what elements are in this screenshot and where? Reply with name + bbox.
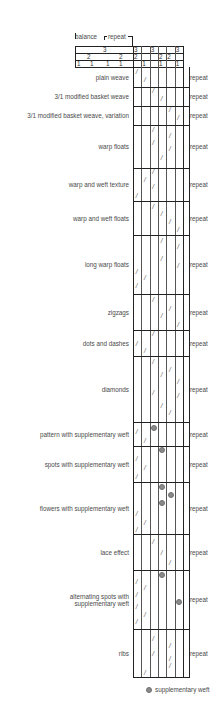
warp-mark-icon: / xyxy=(161,237,163,244)
weave-label: pattern with supplementary weft xyxy=(40,431,129,438)
warp-mark-icon: / xyxy=(152,650,154,657)
warp-mark-icon: / xyxy=(161,255,163,262)
supplementary-weft-dot-icon xyxy=(146,687,152,693)
warp-mark-icon: / xyxy=(136,282,138,289)
warp-mark-icon: / xyxy=(161,549,163,556)
warp-mark-icon: / xyxy=(161,371,163,378)
row-divider xyxy=(133,677,190,678)
header-border xyxy=(75,46,76,67)
repeat-text: repeat xyxy=(108,33,126,40)
bracket-line xyxy=(104,36,105,40)
grid-column-line xyxy=(133,46,134,677)
header-count: 3 xyxy=(134,46,138,53)
row-divider xyxy=(133,482,190,483)
weave-label: 3/1 modified basket weave xyxy=(54,93,129,100)
header-count: 3 xyxy=(103,46,107,53)
header-count: 2 xyxy=(167,53,171,60)
warp-mark-icon: / xyxy=(136,526,138,533)
legend: supplementary weft xyxy=(146,686,210,693)
warp-mark-icon: / xyxy=(152,126,154,133)
warp-mark-icon: / xyxy=(152,203,154,210)
weave-label: warp floats xyxy=(99,143,129,150)
warp-mark-icon: / xyxy=(144,76,146,83)
repeat-label: repeat xyxy=(190,93,208,100)
repeat-label: repeat xyxy=(190,431,208,438)
warp-mark-icon: / xyxy=(136,618,138,625)
warp-mark-icon: / xyxy=(136,578,138,585)
warp-mark-icon: / xyxy=(169,642,171,649)
header-count: 3 xyxy=(151,46,155,53)
header-count: 1 xyxy=(176,60,180,67)
header-count: 1 xyxy=(106,60,110,67)
row-divider xyxy=(133,294,190,295)
repeat-label: repeat xyxy=(190,340,208,347)
warp-mark-icon: / xyxy=(177,378,179,385)
warp-mark-icon: / xyxy=(136,603,138,610)
warp-mark-icon: / xyxy=(144,176,146,183)
supplementary-weft-dot-icon xyxy=(176,599,182,605)
weave-label: long warp floats xyxy=(85,261,129,268)
weave-label: alternating spots withsupplementary weft xyxy=(70,593,129,607)
row-divider xyxy=(133,87,190,88)
balance-text: balance xyxy=(75,33,97,40)
header-count: 1 xyxy=(119,60,123,67)
warp-mark-icon: / xyxy=(169,409,171,416)
warp-mark-icon: / xyxy=(144,274,146,281)
weave-label: warp and weft texture xyxy=(69,181,129,188)
warp-mark-icon: / xyxy=(144,611,146,618)
warp-mark-icon: / xyxy=(161,154,163,161)
repeat-bracket-line xyxy=(189,67,190,677)
repeat-label: repeat xyxy=(190,461,208,468)
weave-label: dots and dashes xyxy=(83,340,129,347)
warp-mark-icon: / xyxy=(161,402,163,409)
repeat-label: repeat xyxy=(190,181,208,188)
supplementary-weft-dot-icon xyxy=(168,492,174,498)
row-divider xyxy=(133,106,190,107)
supplementary-weft-dot-icon xyxy=(159,500,165,506)
warp-mark-icon: / xyxy=(144,519,146,526)
row-divider xyxy=(133,422,190,423)
warp-mark-icon: / xyxy=(177,321,179,328)
header-count: 2 xyxy=(119,53,123,60)
row-divider xyxy=(133,534,190,535)
repeat-label: repeat xyxy=(190,215,208,222)
warp-mark-icon: / xyxy=(136,340,138,347)
warp-mark-icon: / xyxy=(169,305,171,312)
warp-mark-icon: / xyxy=(169,145,171,152)
warp-mark-icon: / xyxy=(144,437,146,444)
repeat-label: repeat xyxy=(190,261,208,268)
repeat-label: repeat xyxy=(190,549,208,556)
bracket-line xyxy=(75,33,76,39)
weave-label: diamonds xyxy=(102,386,129,393)
warp-mark-icon: / xyxy=(144,584,146,591)
grid-column-line xyxy=(158,46,159,677)
row-divider xyxy=(133,235,190,236)
header-count: 1 xyxy=(77,60,81,67)
warp-mark-icon: / xyxy=(152,183,154,190)
warp-mark-icon: / xyxy=(136,591,138,598)
warp-mark-icon: / xyxy=(161,210,163,217)
warp-mark-icon: / xyxy=(152,330,154,337)
warp-mark-icon: / xyxy=(136,428,138,435)
weave-label: plain weave xyxy=(96,74,129,81)
supplementary-weft-dot-icon xyxy=(159,447,165,453)
warp-mark-icon: / xyxy=(136,268,138,275)
supplementary-weft-dot-icon xyxy=(151,425,157,431)
warp-mark-icon: / xyxy=(152,87,154,94)
warp-mark-icon: / xyxy=(136,68,138,75)
warp-mark-icon: / xyxy=(152,389,154,396)
weave-chart: balance repeat 3333222221111111plain wea… xyxy=(0,0,222,719)
warp-mark-icon: / xyxy=(169,559,171,566)
weave-label: warp and weft floats xyxy=(73,215,129,222)
warp-mark-icon: / xyxy=(169,366,171,373)
header-count: 2 xyxy=(134,53,138,60)
warp-mark-icon: / xyxy=(177,392,179,399)
repeat-label: repeat xyxy=(190,386,208,393)
row-divider xyxy=(133,125,190,126)
repeat-label: repeat xyxy=(190,74,208,81)
header-count: 2 xyxy=(159,53,163,60)
legend-label: supplementary weft xyxy=(155,686,210,693)
header-count: 1 xyxy=(142,60,146,67)
header-repeat-label: repeat xyxy=(108,33,126,40)
header-count: 3 xyxy=(176,46,180,53)
